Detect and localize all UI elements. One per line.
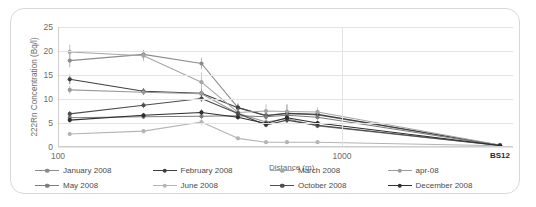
chart-container: 222Rn Concentration (Bq/l) 0510152025 10… [10, 8, 520, 194]
legend-swatch-icon [153, 185, 177, 186]
legend-item-may-2008[interactable]: May 2008 [35, 181, 153, 190]
y-axis-tick-label: 20 [44, 46, 53, 56]
legend-item-february-2008[interactable]: February 2008 [153, 166, 271, 175]
series-october-2008 [68, 95, 502, 148]
chart-legend: January 2008February 2008March 2008apr-0… [35, 166, 505, 190]
legend-item-label: January 2008 [63, 166, 111, 175]
legend-swatch-icon [35, 185, 59, 186]
legend-item-december-2008[interactable]: December 2008 [388, 181, 506, 190]
legend-item-october-2008[interactable]: October 2008 [270, 181, 388, 190]
x-axis-tick-label: 100 [51, 151, 65, 161]
plot-area: 0510152025 1001000BS12 [58, 27, 513, 147]
legend-item-label: May 2008 [63, 181, 98, 190]
series-layer [58, 27, 513, 147]
x-axis-tick-label: 1000 [333, 151, 352, 161]
y-axis-tick-label: 25 [44, 22, 53, 32]
x-axis-endpoint-label: BS12 [490, 151, 510, 160]
legend-item-label: March 2008 [298, 166, 340, 175]
legend-item-label: October 2008 [298, 181, 346, 190]
legend-swatch-icon [35, 170, 59, 171]
y-axis-tick-label: 5 [48, 118, 53, 128]
legend-item-label: December 2008 [416, 181, 473, 190]
legend-item-label: June 2008 [181, 181, 218, 190]
vertical-gridline [342, 27, 343, 147]
legend-swatch-icon [388, 185, 412, 186]
x-axis-line [58, 146, 513, 147]
y-axis-line [58, 27, 59, 147]
legend-item-label: February 2008 [181, 166, 233, 175]
y-axis-title: 222Rn Concentration (Bq/l) [30, 27, 42, 147]
gridline [58, 123, 513, 124]
legend-swatch-icon [153, 170, 177, 171]
legend-item-january-2008[interactable]: January 2008 [35, 166, 153, 175]
gridline [58, 27, 513, 28]
gridline [58, 51, 513, 52]
gridline [58, 147, 513, 148]
legend-item-march-2008[interactable]: March 2008 [270, 166, 388, 175]
legend-item-label: apr-08 [416, 166, 439, 175]
gridline [58, 99, 513, 100]
y-axis-tick-label: 15 [44, 70, 53, 80]
legend-swatch-icon [270, 185, 294, 186]
legend-item-june-2008[interactable]: June 2008 [153, 181, 271, 190]
legend-swatch-icon [388, 170, 412, 171]
gridline [58, 75, 513, 76]
legend-swatch-icon [270, 170, 294, 171]
y-axis-tick-label: 10 [44, 94, 53, 104]
legend-item-apr-08[interactable]: apr-08 [388, 166, 506, 175]
